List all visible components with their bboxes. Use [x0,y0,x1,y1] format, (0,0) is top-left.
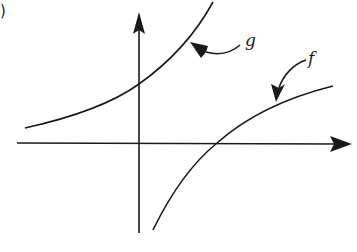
g-pointer-arrow-icon [190,42,240,58]
curve-g [25,2,213,128]
curve-f [153,86,333,230]
y-axis [133,12,145,233]
label-g: g [245,30,256,50]
graph-canvas [0,0,357,252]
graph-figure: ) g f [0,0,357,252]
label-f: f [308,48,314,68]
x-axis [17,136,352,152]
